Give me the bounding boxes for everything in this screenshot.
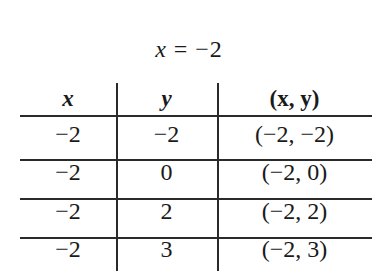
cell-pair: (−2, −2) — [217, 121, 372, 148]
header-pair: (x, y) — [217, 86, 372, 112]
table-header-row: x y (x, y) — [20, 83, 372, 115]
cell-pair: (−2, 3) — [217, 236, 372, 263]
equation-title: x = −2 — [0, 36, 378, 63]
equation-operator: = — [167, 36, 196, 62]
table-row: −2 −2 (−2, −2) — [20, 115, 372, 154]
cell-pair: (−2, 0) — [217, 159, 372, 186]
header-x: x — [20, 86, 116, 112]
equation-variable: x — [155, 36, 167, 62]
header-y: y — [116, 86, 217, 112]
cell-y: 0 — [116, 159, 217, 186]
table-row: −2 2 (−2, 2) — [20, 192, 372, 231]
cell-y: −2 — [116, 121, 217, 148]
table-row: −2 3 (−2, 3) — [20, 231, 372, 270]
cell-x: −2 — [20, 198, 116, 225]
table-row: −2 0 (−2, 0) — [20, 154, 372, 193]
cell-x: −2 — [20, 236, 116, 263]
values-table: x y (x, y) −2 −2 (−2, −2) −2 0 (−2, 0) −… — [20, 83, 372, 269]
cell-y: 2 — [116, 198, 217, 225]
cell-pair: (−2, 2) — [217, 198, 372, 225]
cell-x: −2 — [20, 159, 116, 186]
cell-x: −2 — [20, 121, 116, 148]
equation-value: −2 — [195, 36, 223, 62]
cell-y: 3 — [116, 236, 217, 263]
